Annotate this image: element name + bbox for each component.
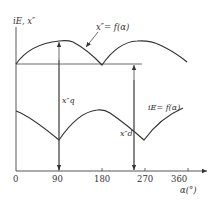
y-axis-label: iE, x″	[13, 17, 35, 26]
upper-curve-leader	[86, 32, 98, 47]
x-axis-label: α(°)	[180, 186, 197, 195]
lower-curve-label: iE= f(α)	[148, 104, 180, 112]
lower-curve-ie	[16, 108, 183, 140]
x-tick-label-0: 0	[13, 175, 18, 184]
x-tick-label-180: 180	[94, 175, 110, 184]
upper-curve-x-double-prime	[16, 41, 187, 65]
xq-label: x″q	[62, 97, 75, 105]
x-tick-label-270: 270	[137, 175, 153, 184]
upper-curve-label: x″= f(α)	[96, 23, 129, 32]
xd-label: x″d	[120, 130, 133, 138]
x-tick-label-90: 90	[52, 175, 63, 184]
x-tick-label-360: 360	[171, 175, 187, 184]
